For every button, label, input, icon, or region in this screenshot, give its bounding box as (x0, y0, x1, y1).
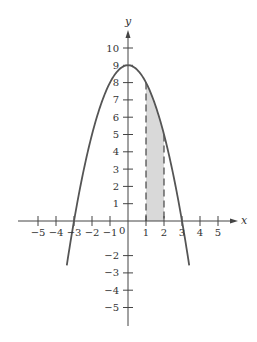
x-tick-label: 4 (197, 227, 203, 238)
x-tick-label: −1 (103, 227, 118, 238)
y-tick-label: −4 (104, 285, 119, 296)
y-tick-label: −5 (104, 302, 119, 313)
y-tick-label: 2 (113, 181, 119, 192)
y-tick-label: −3 (104, 267, 119, 278)
x-tick-label: −3 (67, 227, 82, 238)
origin-label: 0 (119, 225, 125, 236)
x-tick-label: 2 (161, 227, 167, 238)
parabola-chart: xy0−5−4−3−2−11234512345678910−2−3−4−5 (0, 0, 257, 342)
y-tick-label: 9 (113, 60, 119, 71)
x-tick-label: −2 (85, 227, 100, 238)
y-tick-label: 1 (113, 198, 119, 209)
x-tick-label: −5 (31, 227, 46, 238)
y-axis-arrow-icon (126, 30, 131, 38)
tick-labels: xy0−5−4−3−2−11234512345678910−2−3−4−5 (31, 15, 248, 313)
x-tick-label: 5 (215, 227, 221, 238)
axes (18, 30, 238, 326)
y-tick-label: 6 (113, 112, 119, 123)
x-tick-label: 3 (179, 227, 185, 238)
y-tick-label: 10 (106, 43, 119, 54)
x-axis-arrow-icon (230, 219, 238, 224)
x-tick-label: −4 (49, 227, 64, 238)
y-tick-label: 5 (113, 129, 119, 140)
y-tick-label: 7 (113, 94, 119, 105)
y-tick-label: 8 (113, 77, 119, 88)
y-tick-label: −2 (104, 250, 119, 261)
y-tick-label: 3 (113, 164, 119, 175)
x-tick-label: 1 (143, 227, 149, 238)
x-axis-label: x (241, 214, 248, 227)
y-tick-label: 4 (113, 146, 119, 157)
y-axis-label: y (124, 15, 132, 28)
